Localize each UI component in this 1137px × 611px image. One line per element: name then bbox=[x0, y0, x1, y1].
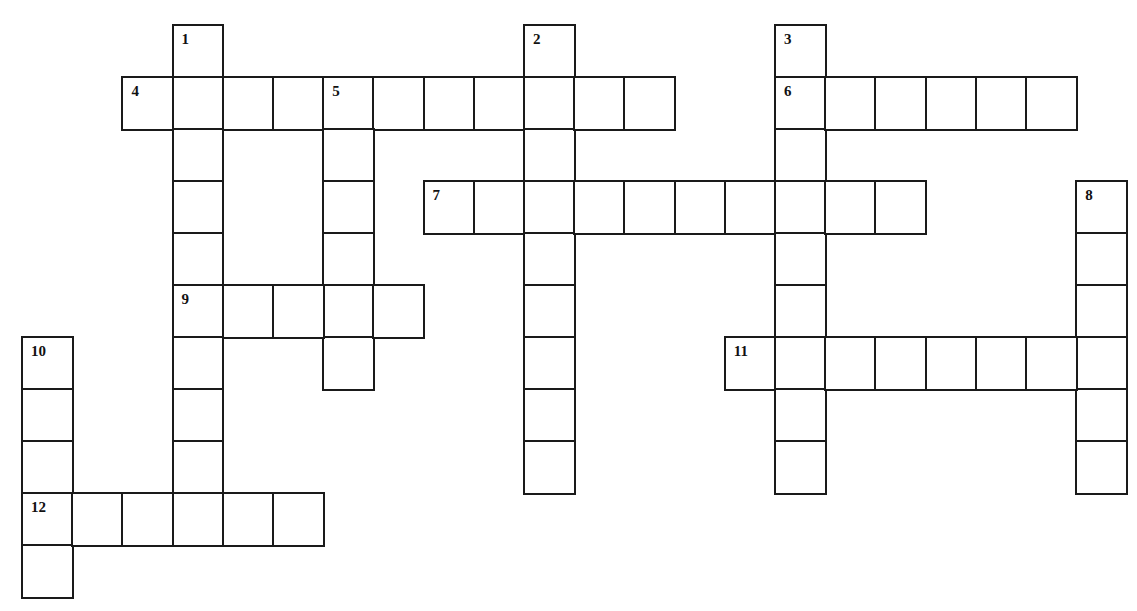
crossword-grid: 192364578101211 bbox=[0, 0, 1137, 611]
clue-number: 4 bbox=[131, 84, 139, 99]
crossword-cell[interactable] bbox=[1075, 336, 1128, 391]
crossword-cell[interactable] bbox=[1075, 232, 1128, 287]
crossword-cell[interactable] bbox=[71, 492, 124, 547]
crossword-cell[interactable] bbox=[172, 180, 225, 235]
crossword-cell[interactable] bbox=[172, 492, 225, 547]
crossword-cell[interactable] bbox=[172, 76, 225, 131]
crossword-cell[interactable] bbox=[322, 284, 375, 339]
crossword-cell[interactable] bbox=[874, 180, 927, 235]
crossword-cell[interactable] bbox=[322, 180, 375, 235]
crossword-cell[interactable] bbox=[824, 180, 877, 235]
crossword-cell[interactable] bbox=[423, 76, 476, 131]
crossword-cell[interactable] bbox=[774, 232, 827, 287]
crossword-cell[interactable] bbox=[121, 492, 174, 547]
crossword-cell[interactable] bbox=[172, 336, 225, 391]
crossword-cell[interactable] bbox=[372, 284, 425, 339]
clue-number: 2 bbox=[533, 32, 541, 47]
clue-number: 5 bbox=[332, 84, 340, 99]
crossword-cell[interactable] bbox=[874, 76, 927, 131]
crossword-cell[interactable] bbox=[473, 76, 526, 131]
crossword-cell[interactable] bbox=[573, 180, 626, 235]
clue-number: 1 bbox=[182, 32, 190, 47]
crossword-cell[interactable]: 10 bbox=[21, 336, 74, 391]
crossword-cell[interactable] bbox=[774, 440, 827, 495]
crossword-cell[interactable] bbox=[21, 440, 74, 495]
crossword-cell[interactable]: 1 bbox=[172, 24, 225, 79]
crossword-cell[interactable] bbox=[1025, 76, 1078, 131]
crossword-cell[interactable] bbox=[523, 336, 576, 391]
crossword-cell[interactable] bbox=[523, 232, 576, 287]
crossword-cell[interactable] bbox=[523, 76, 576, 131]
crossword-cell[interactable] bbox=[222, 76, 275, 131]
crossword-cell[interactable] bbox=[21, 388, 74, 443]
clue-number: 3 bbox=[784, 32, 792, 47]
crossword-cell[interactable] bbox=[774, 180, 827, 235]
crossword-cell[interactable] bbox=[925, 76, 978, 131]
crossword-cell[interactable] bbox=[172, 232, 225, 287]
crossword-cell[interactable]: 11 bbox=[724, 336, 777, 391]
crossword-cell[interactable]: 12 bbox=[21, 492, 74, 547]
crossword-cell[interactable] bbox=[925, 336, 978, 391]
crossword-cell[interactable]: 8 bbox=[1075, 180, 1128, 235]
crossword-cell[interactable] bbox=[774, 336, 827, 391]
crossword-cell[interactable] bbox=[1075, 440, 1128, 495]
crossword-cell[interactable] bbox=[523, 128, 576, 183]
crossword-cell[interactable] bbox=[172, 128, 225, 183]
crossword-cell[interactable]: 6 bbox=[774, 76, 827, 131]
crossword-cell[interactable] bbox=[774, 128, 827, 183]
crossword-cell[interactable] bbox=[322, 336, 375, 391]
crossword-cell[interactable] bbox=[322, 232, 375, 287]
crossword-cell[interactable] bbox=[473, 180, 526, 235]
crossword-cell[interactable] bbox=[1075, 284, 1128, 339]
crossword-cell[interactable]: 5 bbox=[322, 76, 375, 131]
clue-number: 9 bbox=[182, 292, 190, 307]
clue-number: 10 bbox=[31, 344, 46, 359]
crossword-cell[interactable]: 4 bbox=[121, 76, 174, 131]
crossword-cell[interactable] bbox=[21, 544, 74, 599]
crossword-cell[interactable] bbox=[774, 388, 827, 443]
crossword-cell[interactable] bbox=[1025, 336, 1078, 391]
crossword-cell[interactable] bbox=[523, 440, 576, 495]
crossword-cell[interactable] bbox=[172, 440, 225, 495]
crossword-cell[interactable] bbox=[774, 284, 827, 339]
clue-number: 7 bbox=[433, 188, 441, 203]
crossword-cell[interactable]: 9 bbox=[172, 284, 225, 339]
crossword-cell[interactable] bbox=[523, 284, 576, 339]
clue-number: 12 bbox=[31, 500, 46, 515]
crossword-cell[interactable]: 7 bbox=[423, 180, 476, 235]
crossword-cell[interactable] bbox=[272, 76, 325, 131]
crossword-cell[interactable] bbox=[523, 180, 576, 235]
crossword-cell[interactable] bbox=[674, 180, 727, 235]
crossword-cell[interactable] bbox=[222, 284, 275, 339]
crossword-cell[interactable] bbox=[573, 76, 626, 131]
crossword-cell[interactable] bbox=[724, 180, 777, 235]
crossword-cell[interactable] bbox=[1075, 388, 1128, 443]
crossword-cell[interactable] bbox=[272, 492, 325, 547]
crossword-cell[interactable] bbox=[623, 180, 676, 235]
clue-number: 11 bbox=[734, 344, 748, 359]
crossword-cell[interactable] bbox=[523, 388, 576, 443]
crossword-cell[interactable] bbox=[372, 76, 425, 131]
crossword-cell[interactable] bbox=[874, 336, 927, 391]
crossword-cell[interactable] bbox=[222, 492, 275, 547]
crossword-cell[interactable] bbox=[623, 76, 676, 131]
crossword-cell[interactable] bbox=[975, 336, 1028, 391]
clue-number: 6 bbox=[784, 84, 792, 99]
crossword-cell[interactable]: 2 bbox=[523, 24, 576, 79]
crossword-cell[interactable] bbox=[975, 76, 1028, 131]
crossword-cell[interactable] bbox=[272, 284, 325, 339]
crossword-cell[interactable] bbox=[172, 388, 225, 443]
crossword-cell[interactable] bbox=[824, 336, 877, 391]
crossword-cell[interactable]: 3 bbox=[774, 24, 827, 79]
crossword-cell[interactable] bbox=[322, 128, 375, 183]
crossword-cell[interactable] bbox=[824, 76, 877, 131]
clue-number: 8 bbox=[1085, 188, 1093, 203]
